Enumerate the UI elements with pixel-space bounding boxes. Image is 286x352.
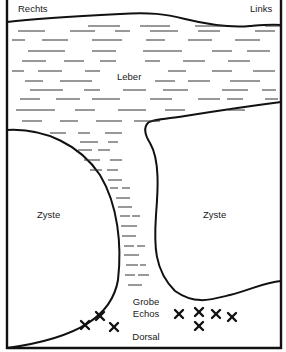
label-echos: Echos: [133, 309, 159, 319]
right-cyst-boundary: [145, 102, 281, 300]
liver-top-boundary: [7, 13, 281, 26]
label-grobe: Grobe: [133, 297, 159, 307]
label-leber: Leber: [117, 72, 141, 82]
label-zyste-right: Zyste: [203, 210, 226, 220]
label-zyste-left: Zyste: [37, 210, 60, 220]
left-cyst-boundary: [7, 130, 119, 348]
liver-texture: [12, 26, 280, 285]
label-dorsal: Dorsal: [132, 332, 159, 342]
label-rechts: Rechts: [18, 4, 48, 14]
label-links: Links: [250, 4, 272, 14]
